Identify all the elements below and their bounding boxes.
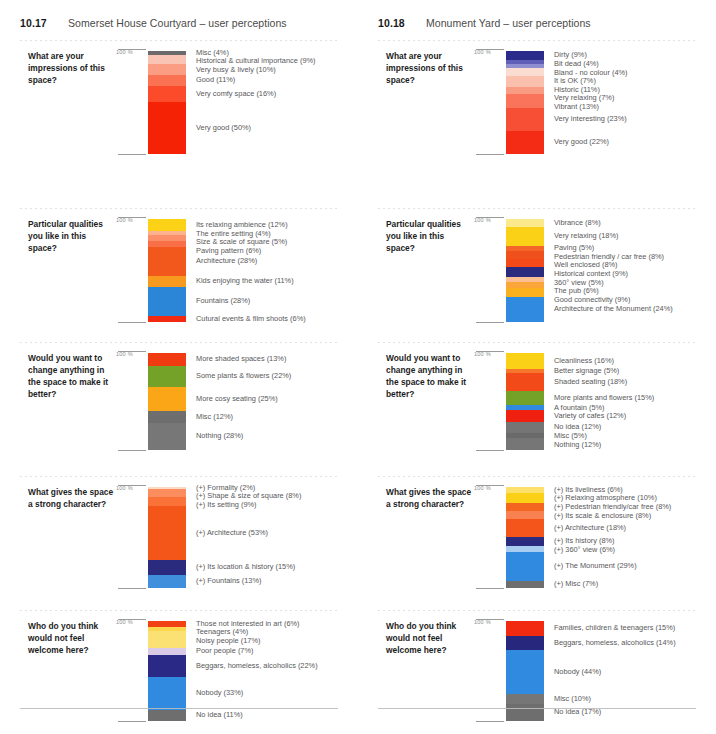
segment-label: (+) Its scale & enclosure (8%) [554,512,651,520]
figure-header: 10.18Monument Yard – user perceptions [378,0,716,39]
segment-label: Its relaxing ambience (12%) [196,221,288,229]
question-text: Particular qualities you like in this sp… [20,210,116,255]
bar-segment [148,75,186,86]
segment-label-list: Cleanliness (16%)Better signage (5%)Shad… [544,344,716,462]
segment-label: (+) Relaxing atmosphere (10%) [554,494,657,502]
segment-label: (+) Formality (2%) [196,484,255,492]
bar-segment [148,86,186,102]
segment-label: Very relaxing (18%) [554,232,619,240]
bar-segment [506,87,544,94]
segment-label: Nothing (28%) [196,432,243,440]
bar-segment [506,537,544,545]
segment-label: Misc (5%) [554,432,587,440]
segment-label: Bland - no colour (4%) [554,69,628,77]
axis-tick-bottom [118,322,146,323]
axis-tick-bottom [476,154,504,155]
bar-segment [506,94,544,107]
bar-segment [148,276,186,287]
axis-label-100-percent: 100 % [474,485,491,491]
axis: 100 % [474,478,506,600]
segment-label: Vibrance (8%) [554,219,601,227]
segment-label: Paving (5%) [554,244,594,252]
segment-label: No idea (17%) [554,708,601,716]
segment-label: Size & scale of square (5%) [196,238,287,246]
bar-segment [506,503,544,511]
question-block: Particular qualities you like in this sp… [378,210,716,334]
bar-segment [148,353,186,366]
stacked-bar-wrapper [506,42,544,154]
stacked-bar-wrapper [148,344,186,450]
segment-label: It is OK (7%) [554,77,596,85]
bar-segment [506,391,544,406]
segment-label-list: Misc (4%)Historical & cultural importanc… [186,42,358,166]
axis-label-100-percent: 100 % [116,619,133,625]
segment-label: A fountain (5%) [554,404,605,412]
segment-label: More shaded spaces (13%) [196,355,286,363]
question-block: What gives the space a strong character?… [378,478,716,600]
bar-segment [506,519,544,537]
axis-tick-bottom [118,721,146,722]
stacked-bar [148,621,186,721]
bar-segment [506,131,544,154]
bar-segment [148,648,186,655]
segment-label: (+) Shape & size of square (8%) [196,492,301,500]
segment-label-list: Dirty (9%)Bit dead (4%)Bland - no colour… [544,42,716,166]
segment-label: The entire setting (4%) [196,230,271,238]
segment-label: Very good (22%) [554,138,609,146]
bar-segment [148,64,186,74]
bar-segment [506,704,544,721]
segment-label: (+) Architecture (18%) [554,524,626,532]
segment-label: Very comfy space (16%) [196,90,276,98]
figure-header: 10.17Somerset House Courtyard – user per… [20,0,358,39]
question-text: Would you want to change anything in the… [378,344,474,401]
segment-label-list: (+) Formality (2%)(+) Shape & size of sq… [186,478,358,600]
segment-label: Historical & cultural importance (9%) [196,57,316,65]
bar-segment [506,251,544,259]
segment-label: Dirty (9%) [554,51,587,59]
segment-label: (+) Pedestrian friendly/car free (8%) [554,503,671,511]
segment-label: More plants and flowers (15%) [554,394,654,402]
segment-label: Pedestrian friendly / car free (8%) [554,253,664,261]
question-block: What are your impressions of this space?… [378,42,716,166]
question-text: Who do you think would not feel welcome … [20,612,116,657]
bar-segment [148,219,186,231]
bar-segment [506,373,544,390]
bar-segment [148,411,186,423]
section-divider [20,610,338,611]
bar-segment [148,387,186,411]
segment-label: Misc (12%) [196,413,233,421]
axis-label-100-percent: 100 % [474,49,491,55]
segment-label: (+) Misc (7%) [554,580,598,588]
segment-label: (+) The Monument (29%) [554,562,637,570]
bar-segment [148,55,186,64]
bottom-rule [378,708,696,709]
bar-segment [506,410,544,422]
segment-label: Good connectivity (9%) [554,296,630,304]
bar-segment [506,511,544,519]
bar-segment [148,497,186,506]
bottom-rule [20,708,338,709]
stacked-bar [148,487,186,588]
bar-segment [506,219,544,227]
segment-label: Misc (10%) [554,695,591,703]
segment-label-list: Those not interested in art (6%)Teenager… [186,612,358,733]
section-divider [20,208,338,209]
section-divider [20,342,338,343]
segment-label: Beggars, homeless, alcoholics (22%) [196,662,318,670]
stacked-bar-wrapper [506,344,544,450]
axis-tick-bottom [476,588,504,589]
axis-label-100-percent: 100 % [474,217,491,223]
axis-label-100-percent: 100 % [474,619,491,625]
segment-label: Variety of cafes (12%) [554,412,626,420]
axis: 100 % [474,42,506,166]
segment-label: Historical context (9%) [554,270,628,278]
question-text: Would you want to change anything in the… [20,344,116,401]
segment-label-list: Families, children & teenagers (15%)Begg… [544,612,716,733]
stacked-bar [506,621,544,721]
stacked-bar [148,51,186,154]
bar-segment [506,76,544,87]
figure-page: 10.17Somerset House Courtyard – user per… [0,0,716,734]
bar-segment [148,631,186,648]
stacked-bar [506,353,544,450]
bar-segment [506,581,544,588]
